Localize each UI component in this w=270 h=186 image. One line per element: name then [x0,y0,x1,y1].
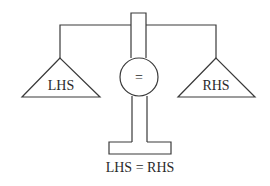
caption: LHS = RHS [106,160,175,175]
beam [60,25,216,58]
base-plate [109,142,171,154]
right-pan: RHS [178,58,255,97]
upper-pillar [131,13,146,58]
lower-pillar [132,96,147,142]
right-pan-label: RHS [202,78,229,93]
equals-symbol: = [135,70,143,85]
left-pan: LHS [22,58,100,97]
fulcrum-equals-node: = [120,58,158,96]
left-pan-label: LHS [48,78,74,93]
balance-scale-diagram: = LHS RHS LHS = RHS [0,0,270,186]
